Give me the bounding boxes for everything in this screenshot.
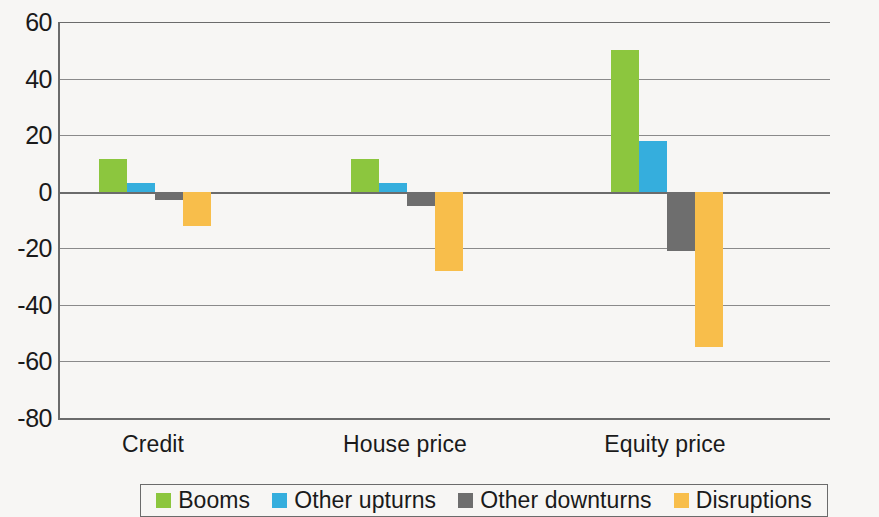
x-category-label: House price <box>343 433 467 456</box>
legend-item[interactable]: Other downturns <box>458 489 652 512</box>
bar <box>155 192 183 200</box>
plot-inner <box>60 22 830 418</box>
bar <box>435 192 463 271</box>
legend-swatch-icon <box>156 493 171 508</box>
legend-label: Booms <box>178 489 250 512</box>
bar <box>611 50 639 191</box>
bar <box>127 183 155 191</box>
bar <box>407 192 435 206</box>
legend-item[interactable]: Booms <box>156 489 250 512</box>
y-tick-label: -60 <box>17 349 52 374</box>
y-tick-label: -20 <box>17 236 52 261</box>
bar <box>99 159 127 192</box>
legend-swatch-icon <box>674 493 689 508</box>
gridline-20 <box>60 135 830 136</box>
plot-area <box>58 22 830 420</box>
gridline-60 <box>60 22 830 23</box>
legend-label: Other upturns <box>294 489 436 512</box>
legend-item[interactable]: Other upturns <box>272 489 436 512</box>
gridline-40 <box>60 79 830 80</box>
x-category-label: Credit <box>122 433 184 456</box>
y-tick-label: 60 <box>25 10 52 35</box>
bar <box>667 192 695 251</box>
bar <box>379 183 407 191</box>
gridline--60 <box>60 361 830 362</box>
legend-item[interactable]: Disruptions <box>674 489 812 512</box>
bar <box>351 159 379 192</box>
y-tick-label: 0 <box>39 179 52 204</box>
x-category-label: Equity price <box>604 433 725 456</box>
bar <box>695 192 723 348</box>
bar <box>639 141 667 192</box>
legend-swatch-icon <box>272 493 287 508</box>
y-tick-label: -40 <box>17 292 52 317</box>
bar-chart: 6040200-20-40-60-80 CreditHouse priceEqu… <box>0 0 879 517</box>
bar <box>183 192 211 226</box>
legend-label: Other downturns <box>480 489 652 512</box>
y-tick-label: 40 <box>25 66 52 91</box>
y-tick-label: 20 <box>25 123 52 148</box>
chart-legend: BoomsOther upturnsOther downturnsDisrupt… <box>140 484 828 517</box>
legend-label: Disruptions <box>696 489 812 512</box>
y-axis-tick-labels: 6040200-20-40-60-80 <box>0 0 52 517</box>
y-tick-label: -80 <box>17 406 52 431</box>
legend-swatch-icon <box>458 493 473 508</box>
